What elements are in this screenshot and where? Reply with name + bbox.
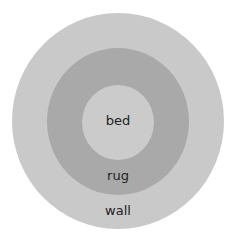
rug-label: rug: [78, 168, 158, 183]
bed-label: bed: [78, 113, 158, 128]
wall-label: wall: [78, 203, 158, 218]
